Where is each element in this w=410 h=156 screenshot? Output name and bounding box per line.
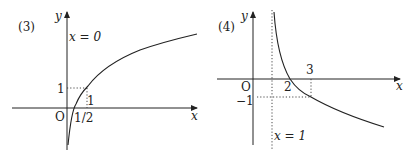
x-axis-label: x — [396, 79, 403, 93]
tick-x-one: 1 — [87, 94, 95, 108]
tick-x-three: 3 — [306, 63, 314, 77]
log-curve — [68, 34, 197, 145]
origin-label: O — [241, 80, 251, 94]
tick-x-half: 1/2 — [74, 111, 93, 125]
asymptote-label: x = 0 — [69, 30, 101, 44]
panel-label: (3) — [18, 20, 35, 34]
graph-panel-4: (4) x y O x = 1 2 3 −1 — [217, 9, 403, 150]
tick-x-two: 2 — [284, 80, 292, 94]
graph-panel-3: (3) x y O x = 0 1 1 1/2 — [12, 9, 198, 150]
origin-label: O — [55, 110, 65, 124]
panel-label: (4) — [218, 20, 235, 34]
function-graphs-figure: (3) x y O x = 0 1 1 1/2 (4) x y O x = 1 … — [0, 0, 410, 156]
y-axis-label: y — [54, 9, 62, 23]
log-curve — [274, 12, 384, 127]
tick-y-neg-one: −1 — [236, 94, 254, 108]
asymptote-label: x = 1 — [274, 129, 306, 143]
x-axis-label: x — [191, 109, 198, 123]
y-axis-label: y — [240, 9, 248, 23]
tick-y-one: 1 — [57, 82, 65, 96]
